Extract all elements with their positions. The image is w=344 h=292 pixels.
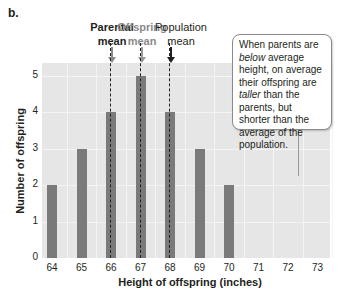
panel-label: b. [8, 6, 19, 20]
x-tick-label: 65 [70, 262, 94, 273]
gridline-vertical [214, 63, 215, 258]
callout-box: When parents are below average height, o… [232, 34, 332, 130]
x-tick-label: 69 [188, 262, 212, 273]
reference-line-population-mean [169, 43, 170, 258]
gridline-vertical [67, 63, 68, 258]
x-tick-label: 71 [247, 262, 271, 273]
bar-64 [47, 185, 57, 258]
x-axis-label: Height of offspring (inches) [90, 276, 290, 288]
x-tick-label: 72 [276, 262, 300, 273]
y-tick-label: 2 [30, 178, 38, 189]
x-tick-label: 70 [217, 262, 241, 273]
population-mean-line2: mean [148, 34, 214, 48]
y-axis-label: Number of offspring [14, 101, 26, 221]
x-tick-label: 66 [99, 262, 123, 273]
callout-emphasis-taller: taller [239, 89, 261, 100]
gridline-vertical [155, 63, 156, 258]
x-tick-label: 68 [158, 262, 182, 273]
reference-line-offspring-mean [140, 43, 141, 258]
callout-emphasis-below: below [239, 52, 265, 63]
gridline-vertical [332, 63, 333, 258]
bar-69 [195, 149, 205, 258]
y-tick-label: 3 [30, 142, 38, 153]
bar-70 [224, 185, 234, 258]
x-tick-label: 64 [40, 262, 64, 273]
population-mean-label: Population mean [148, 20, 214, 48]
reference-line-parental-mean [110, 43, 111, 258]
bar-65 [77, 149, 87, 258]
x-tick-label: 73 [306, 262, 330, 273]
y-tick-label: 4 [30, 105, 38, 116]
population-mean-line1: Population [148, 20, 214, 34]
gridline-vertical [185, 63, 186, 258]
gridline-vertical [126, 63, 127, 258]
gridline-vertical [96, 63, 97, 258]
callout-text-1: When parents are [239, 39, 319, 50]
y-tick-label: 0 [30, 251, 38, 262]
x-tick-label: 67 [129, 262, 153, 273]
y-tick-label: 5 [30, 69, 38, 80]
y-tick-label: 1 [30, 215, 38, 226]
